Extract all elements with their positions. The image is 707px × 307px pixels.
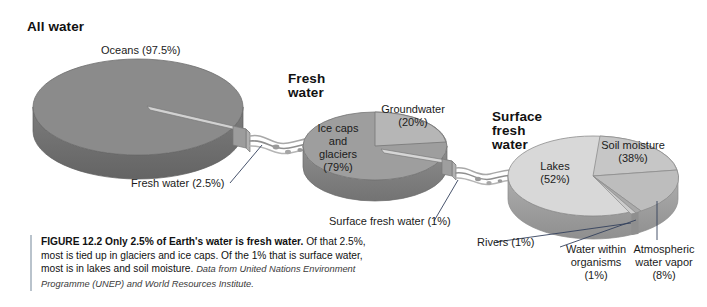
figure-headline: Only 2.5% of Earth's water is fresh wate… xyxy=(105,236,303,247)
pie3-label-soil-line2: (38%) xyxy=(590,152,676,165)
pie2-label-ice-line2: and xyxy=(307,135,369,148)
figure-12-2: All water Fresh water Surface fresh wate… xyxy=(0,0,707,307)
pie2-title-line2: water xyxy=(288,86,325,100)
callout-atmospheric-vapor: Atmospheric water vapor (8%) xyxy=(622,243,706,282)
callout-fresh-water: Fresh water (2.5%) xyxy=(131,177,225,190)
pie3-label-soil-moisture: Soil moisture (38%) xyxy=(590,139,676,165)
pie1-slice-oceans xyxy=(33,59,243,155)
pie2-label-groundwater-line1: Groundwater xyxy=(370,103,456,116)
pie3-rim-sliver xyxy=(632,212,638,235)
pie3-label-lakes: Lakes (52%) xyxy=(530,160,580,186)
pie2-label-ice-line1: Ice caps xyxy=(307,122,369,135)
pie2-title: Fresh water xyxy=(288,72,325,100)
pie2-title-line1: Fresh xyxy=(288,72,325,86)
pie-chart-all-water xyxy=(33,59,250,179)
pie3-title: Surface fresh water xyxy=(492,110,542,152)
pie2-slice-surface-end xyxy=(452,161,456,180)
pie1-label-oceans: Oceans (97.5%) xyxy=(101,44,180,57)
callout-surface-fresh-water: Surface fresh water (1%) xyxy=(329,215,451,228)
pie2-label-ice-line4: (79%) xyxy=(307,161,369,174)
pie3-label-lakes-line2: (52%) xyxy=(530,173,580,186)
pie3-title-line1: Surface xyxy=(492,110,542,124)
pie3-label-soil-line1: Soil moisture xyxy=(590,139,676,152)
figure-number: FIGURE 12.2 xyxy=(41,236,102,247)
pie2-label-ice-caps: Ice caps and glaciers (79%) xyxy=(307,122,369,174)
callout-vapor-line1: Atmospheric xyxy=(622,243,706,256)
pie1-slice-fresh-water-side xyxy=(233,126,246,148)
callout-vapor-line3: (8%) xyxy=(622,269,706,282)
pie2-label-ice-line3: glaciers xyxy=(307,148,369,161)
pie1-title: All water xyxy=(27,20,84,34)
callout-vapor-line2: water vapor xyxy=(622,256,706,269)
pie3-title-line3: water xyxy=(492,138,542,152)
pie3-label-lakes-line1: Lakes xyxy=(530,160,580,173)
pie3-title-line2: fresh xyxy=(492,124,542,138)
callout-rivers: Rivers (1%) xyxy=(477,236,534,249)
figure-caption: FIGURE 12.2 Only 2.5% of Earth's water i… xyxy=(30,235,375,291)
pie2-slice-surface-side xyxy=(442,159,452,176)
leader-fresh-water xyxy=(230,145,262,183)
pie2-label-groundwater: Groundwater (20%) xyxy=(370,103,456,129)
pie2-label-groundwater-line2: (20%) xyxy=(370,116,456,129)
